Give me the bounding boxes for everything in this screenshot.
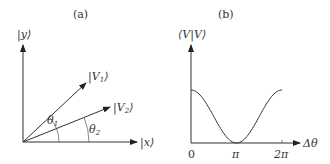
panel-b-title: (b): [218, 8, 234, 21]
theta2-label: θ2: [89, 123, 101, 137]
tick-label-pi: π: [231, 148, 240, 161]
tick-label-0: 0: [188, 148, 195, 161]
b-x-axis-label: Δθ: [302, 137, 318, 150]
b-y-axis-label: ⟨V|V⟩: [178, 28, 206, 42]
panel-a-title: (a): [73, 8, 88, 21]
x-axis-label: |x⟩: [140, 136, 154, 150]
overlap-curve: [191, 90, 282, 143]
vector-v1-label: |V1⟩: [88, 70, 108, 84]
panel-a: (a) |y⟩ |x⟩ |V1⟩ |V2⟩ θ1 θ2: [17, 8, 154, 150]
vector-v1-arrow: [23, 83, 86, 142]
theta1-label: θ1: [47, 114, 58, 128]
theta1-arc-lower: [57, 129, 60, 143]
panel-b: (b) ⟨V|V⟩ Δθ 0 π 2π: [178, 8, 318, 161]
y-axis-label: |y⟩: [17, 28, 31, 42]
vector-v2-label: |V2⟩: [113, 101, 133, 115]
figure: (a) |y⟩ |x⟩ |V1⟩ |V2⟩ θ1 θ2 (b) ⟨V|V⟩ Δθ…: [0, 0, 330, 164]
tick-label-2pi: 2π: [273, 148, 289, 161]
